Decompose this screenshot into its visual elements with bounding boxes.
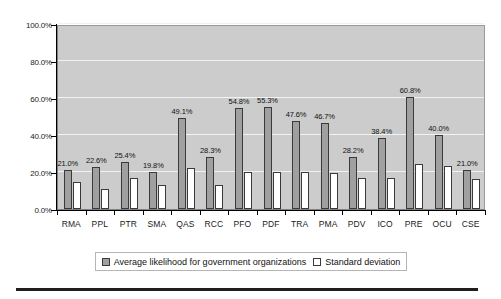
bar-main-ptr [121,162,129,209]
gridline-100-0 [58,23,484,24]
bar-sd-cse [472,179,480,209]
bar-group-pre: 60.8% [406,26,423,209]
legend-item-average-likelihood: Average likelihood for government organi… [102,257,306,267]
bar-sd-pdf [273,172,281,209]
bar-group-pma: 46.7% [321,26,338,209]
y-axis-label-80.0: 80.0% [0,58,52,67]
x-axis-label-ico: ICO [371,219,400,229]
data-label-cse: 21.0% [456,159,478,168]
bar-sd-ocu [444,166,452,209]
bar-sd-tra [301,172,309,209]
data-label-pre: 60.8% [399,86,421,95]
bar-sd-pfo [244,172,252,209]
x-axis-label-tra: TRA [285,219,314,229]
x-axis-tick [285,210,286,215]
bar-main-pma [321,123,329,209]
bar-sd-pdv [358,178,366,209]
data-label-ptr: 25.4% [114,151,136,160]
bar-main-ico [378,138,386,209]
bar-main-tra [292,121,300,209]
x-axis-tick [200,210,201,215]
data-label-rcc: 28.3% [199,146,221,155]
x-axis-label-pre: PRE [399,219,428,229]
bar-main-ppl [92,167,100,209]
x-axis-line [56,210,486,211]
bar-main-pdf [264,107,272,209]
x-axis-label-pma: PMA [314,219,343,229]
legend-label: Average likelihood for government organi… [114,257,306,267]
bar-main-qas [178,118,186,209]
x-axis-label-ocu: OCU [428,219,457,229]
x-axis-label-ppl: PPL [86,219,115,229]
bar-group-pfo: 54.8% [235,26,252,209]
x-axis-tick [371,210,372,215]
x-axis-tick [57,210,58,215]
legend-swatch-sd-icon [313,258,321,266]
bar-group-tra: 47.6% [292,26,309,209]
legend-item-standard-deviation: Standard deviation [313,257,400,267]
data-label-qas: 49.1% [171,107,193,116]
bar-sd-pma [330,173,338,209]
data-label-ocu: 40.0% [428,124,450,133]
x-axis-tick [342,210,343,215]
bar-sd-rcc [215,185,223,209]
data-label-tra: 47.6% [285,110,307,119]
x-axis-tick [114,210,115,215]
x-axis-tick [86,210,87,215]
bar-group-ocu: 40.0% [435,26,452,209]
bottom-divider-rule [16,288,478,291]
x-axis-label-sma: SMA [143,219,172,229]
bar-sd-pre [415,164,423,210]
y-axis-label-40.0: 40.0% [0,132,52,141]
bar-main-pdv [349,157,357,209]
x-axis-tick [485,210,486,215]
bar-sd-ptr [130,178,138,209]
data-label-pfo: 54.8% [228,97,250,106]
legend-label: Standard deviation [325,257,400,267]
bar-sd-ppl [101,189,109,209]
bar-main-pfo [235,108,243,209]
bar-sd-sma [158,185,166,209]
bar-sd-qas [187,168,195,209]
y-axis-label-20.0: 20.0% [0,169,52,178]
x-axis-label-pfo: PFO [228,219,257,229]
bar-main-rma [64,170,72,209]
bar-group-ptr: 25.4% [121,26,138,209]
bar-chart-figure: 21.0%22.6%25.4%19.8%49.1%28.3%54.8%55.3%… [0,0,501,299]
y-axis-label-60.0: 60.0% [0,95,52,104]
data-label-rma: 21.0% [57,159,79,168]
bar-group-cse: 21.0% [463,26,480,209]
x-axis-tick [257,210,258,215]
x-axis-label-pdf: PDF [257,219,286,229]
bar-group-pdv: 28.2% [349,26,366,209]
bar-group-pdf: 55.3% [264,26,281,209]
x-axis-label-rma: RMA [57,219,86,229]
bar-group-rma: 21.0% [64,26,81,209]
plot-area: 21.0%22.6%25.4%19.8%49.1%28.3%54.8%55.3%… [57,25,485,210]
data-label-pma: 46.7% [314,112,336,121]
x-axis-label-ptr: PTR [114,219,143,229]
data-label-pdf: 55.3% [257,96,279,105]
x-axis-label-pdv: PDV [342,219,371,229]
x-axis-label-rcc: RCC [200,219,229,229]
data-label-ico: 38.4% [371,127,393,136]
data-label-sma: 19.8% [142,161,164,170]
legend-swatch-main-icon [102,258,110,266]
bar-group-ico: 38.4% [378,26,395,209]
bar-group-sma: 19.8% [149,26,166,209]
y-axis-label-100.0: 100.0% [0,21,52,30]
bar-main-rcc [206,157,214,209]
x-axis-tick [399,210,400,215]
x-axis-tick [456,210,457,215]
chart-legend: Average likelihood for government organi… [95,252,407,271]
bar-group-rcc: 28.3% [206,26,223,209]
x-axis-tick [428,210,429,215]
bar-group-qas: 49.1% [178,26,195,209]
x-axis-label-cse: CSE [456,219,485,229]
bar-main-sma [149,172,157,209]
bar-sd-rma [73,182,81,209]
bar-sd-ico [387,178,395,209]
x-axis-label-qas: QAS [171,219,200,229]
data-label-pdv: 28.2% [342,146,364,155]
x-axis-tick [143,210,144,215]
